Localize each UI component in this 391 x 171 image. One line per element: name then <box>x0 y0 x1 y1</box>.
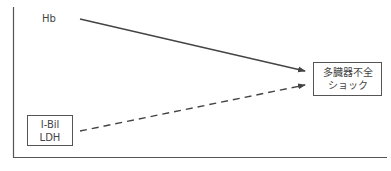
node-outcome-line2: ショック <box>328 79 368 92</box>
node-hb: Hb <box>42 12 56 25</box>
node-ldh-label: LDH <box>40 131 61 144</box>
node-ibil-label: I-Bil <box>41 118 60 131</box>
node-ibil-ldh: I-Bil LDH <box>27 115 73 146</box>
node-outcome: 多臓器不全 ショック <box>313 62 382 96</box>
node-outcome-line1: 多臓器不全 <box>323 66 373 79</box>
solid-arrow-hb-to-outcome <box>80 19 305 71</box>
dashed-arrow-ibil-to-outcome <box>80 85 305 131</box>
